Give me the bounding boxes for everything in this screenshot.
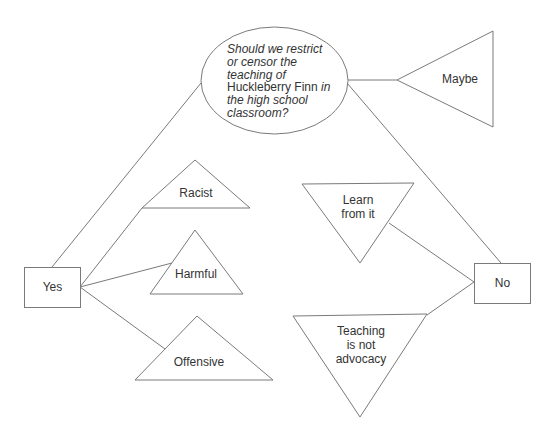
connector-yes-offensive: [80, 287, 165, 349]
question-line-4-rest: in: [318, 80, 331, 94]
question-text: Should we restrict or censor the teachin…: [227, 43, 327, 120]
question-line-6-text: classroom?: [227, 106, 288, 120]
maybe-label: Maybe: [430, 72, 490, 86]
learn-line-1: Learn: [328, 193, 388, 207]
connector-yes-racist: [80, 208, 142, 287]
yes-label: Yes: [24, 280, 81, 294]
no-label: No: [474, 276, 531, 290]
teaching-line-1: Teaching: [328, 324, 394, 338]
learn-line-2: from it: [328, 207, 388, 221]
teaching-not-advocacy-label: Teaching is not advocacy: [328, 324, 394, 366]
racist-triangle: [142, 160, 250, 208]
offensive-triangle: [135, 316, 273, 380]
harmful-triangle: [150, 230, 243, 294]
harmful-label: Harmful: [166, 267, 226, 281]
teaching-line-2: is not: [328, 338, 394, 352]
offensive-label: Offensive: [166, 355, 232, 369]
connector-no-teaching: [427, 282, 474, 315]
racist-label: Racist: [166, 186, 226, 200]
teaching-line-3: advocacy: [328, 352, 394, 366]
question-line-6: classroom?: [227, 107, 327, 120]
connector-no-learn: [389, 223, 474, 282]
learn-from-it-label: Learn from it: [328, 193, 388, 221]
